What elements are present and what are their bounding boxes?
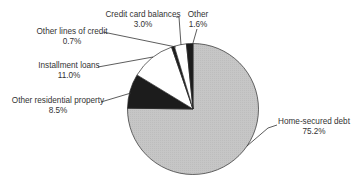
label-other-residential-value: 8.5% [49, 106, 68, 115]
label-other-lines-value: 0.7% [63, 37, 82, 46]
label-other-value: 1.6% [189, 20, 208, 29]
leader-other [193, 29, 197, 43]
label-credit-card-value: 3.0% [134, 20, 153, 29]
pie-slices [128, 44, 259, 175]
leader-other-lines [103, 32, 176, 47]
label-installment-name: Installment loans [38, 61, 99, 70]
pie-chart: Home-secured debt 75.2% Other residentia… [0, 0, 359, 188]
label-home-secured-name: Home-secured debt [278, 117, 351, 126]
label-credit-card-name: Credit card balances [105, 10, 180, 19]
label-installment-value: 11.0% [58, 71, 81, 80]
label-home-secured-value: 75.2% [302, 127, 325, 136]
label-other-residential-name: Other residential property [12, 96, 105, 105]
label-other-lines-name: Other lines of credit [37, 27, 109, 36]
leader-credit-card [176, 17, 181, 45]
leader-other-residential [101, 93, 131, 102]
label-other-name: Other [188, 10, 209, 19]
